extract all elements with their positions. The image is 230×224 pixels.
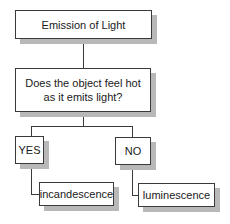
yes-box: YES: [15, 136, 44, 164]
connector-branch-horizontal: [31, 126, 133, 127]
title-box: Emission of Light: [15, 10, 152, 39]
connector-yes-right: [31, 194, 39, 195]
no-label: NO: [125, 144, 142, 158]
question-box: Does the object feel hot as it emits lig…: [15, 68, 151, 112]
question-text: Does the object feel hot as it emits lig…: [22, 76, 144, 104]
connector-title-to-question: [83, 38, 84, 68]
incandescence-label: incandescence: [40, 187, 113, 201]
incandescence-box: incandescence: [39, 182, 114, 206]
connector-question-down: [83, 111, 84, 126]
title-text: Emission of Light: [42, 18, 126, 32]
luminescence-label: luminescence: [143, 188, 210, 202]
connector-no-down: [132, 164, 133, 195]
luminescence-box: luminescence: [138, 183, 215, 207]
no-box: NO: [115, 137, 151, 165]
connector-to-yes: [31, 126, 32, 136]
connector-yes-down: [31, 163, 32, 194]
yes-label: YES: [18, 143, 40, 157]
connector-to-no: [132, 126, 133, 137]
